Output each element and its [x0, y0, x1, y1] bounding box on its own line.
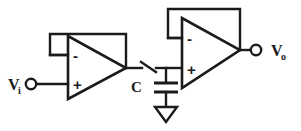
input-label-subscript: i	[18, 85, 21, 96]
opamp-left-noninverting-sign: +	[73, 76, 82, 93]
opamp-left-group: - +	[38, 34, 142, 99]
sampling-switch-group[interactable]	[141, 62, 182, 72]
ground-triangle	[155, 107, 177, 122]
circuit-canvas: - + V i C	[0, 0, 301, 131]
capacitor-label: C	[131, 79, 142, 95]
hold-capacitor-group: C	[131, 68, 178, 107]
output-terminal-circle[interactable]	[251, 45, 261, 55]
sampling-switch-blade[interactable]	[141, 62, 156, 72]
opamp-right-group: - +	[168, 9, 250, 88]
circuit-diagram: - + V i C	[0, 0, 301, 131]
output-label-subscript: o	[281, 51, 286, 62]
input-terminal-circle[interactable]	[26, 79, 36, 89]
opamp-left-inverting-sign: -	[73, 47, 78, 64]
output-port-group: V o	[251, 42, 286, 62]
input-port-group: V i	[8, 76, 36, 96]
ground-group	[155, 107, 177, 122]
opamp-right-noninverting-sign: +	[187, 61, 196, 78]
opamp-right-inverting-sign: -	[187, 30, 192, 47]
